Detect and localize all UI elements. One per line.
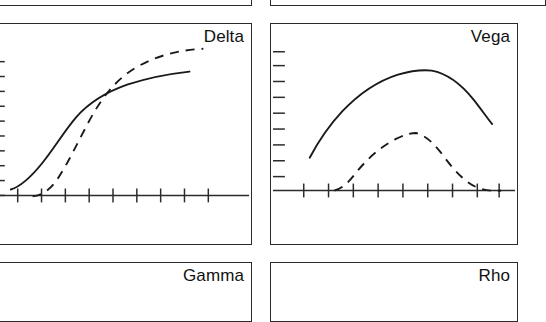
panel-label-gamma: Gamma xyxy=(183,266,244,285)
vega-y-ticks xyxy=(273,52,285,177)
vega-curve-solid xyxy=(310,70,493,158)
chart-panel-rho: Rho xyxy=(270,262,518,322)
delta-plot-svg xyxy=(0,24,251,244)
delta-y-ticks xyxy=(0,62,5,196)
panel-label-vega: Vega xyxy=(471,27,510,46)
chart-panel-top-right xyxy=(270,0,546,6)
panel-label-delta: Delta xyxy=(204,27,244,46)
chart-panel-top-left xyxy=(0,0,252,6)
chart-panel-gamma: Gamma xyxy=(0,262,252,322)
chart-panel-delta: Delta xyxy=(0,23,252,245)
panel-label-rho: Rho xyxy=(479,266,511,285)
delta-curve-solid xyxy=(11,72,190,190)
chart-panel-vega: Vega xyxy=(270,23,518,245)
vega-plot-svg xyxy=(271,24,517,244)
delta-curve-dashed xyxy=(33,49,204,197)
vega-curve-dashed xyxy=(334,133,501,191)
